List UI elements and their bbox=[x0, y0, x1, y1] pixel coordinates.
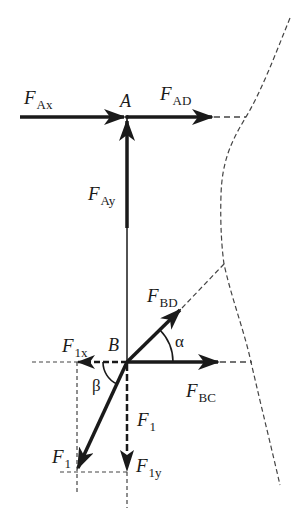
point-a-dot bbox=[125, 115, 129, 119]
boundary-curve bbox=[221, 18, 290, 485]
label-f-ax: FAx bbox=[24, 88, 53, 107]
label-point-a: A bbox=[120, 92, 131, 110]
label-f-1-vertical: F1 bbox=[137, 410, 156, 429]
label-f-bc: FBC bbox=[186, 381, 216, 400]
label-f-ay: FAy bbox=[88, 184, 115, 203]
force-diagram bbox=[0, 0, 298, 527]
angle-beta-arc bbox=[103, 362, 117, 384]
label-angle-alpha: α bbox=[175, 333, 184, 350]
label-f-bd: FBD bbox=[147, 286, 178, 305]
label-f-1x: F1x bbox=[62, 336, 88, 355]
label-f-1: F1 bbox=[52, 447, 71, 466]
f-bd-extension-dashed bbox=[182, 264, 224, 308]
force-arrow-f-1 bbox=[78, 362, 127, 468]
label-f-1y: F1y bbox=[136, 456, 162, 475]
label-angle-beta: β bbox=[92, 377, 101, 394]
f-1y-arrowhead bbox=[120, 450, 134, 472]
label-point-b: B bbox=[108, 336, 119, 354]
label-f-ad: FAD bbox=[160, 84, 191, 103]
angle-alpha-arc bbox=[160, 330, 173, 362]
